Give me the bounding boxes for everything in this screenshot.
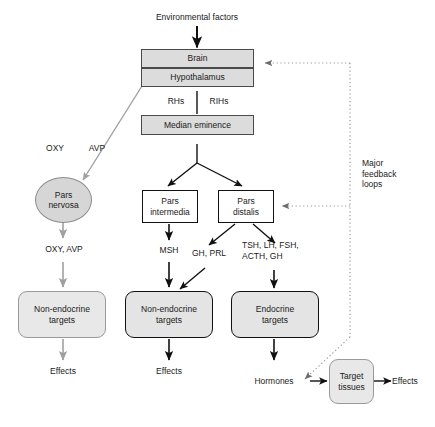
brain-box[interactable]: Brain bbox=[141, 49, 254, 68]
non-endocrine-targets-box-2[interactable]: Non-endocrine targets bbox=[125, 291, 213, 338]
non-endocrine-targets-box-1[interactable]: Non-endocrine targets bbox=[18, 291, 106, 338]
effects-label-2: Effects bbox=[142, 366, 196, 377]
rhs-label: RHs bbox=[160, 96, 192, 107]
effects-label-1: Effects bbox=[36, 366, 90, 377]
connector-median-to-pars-intermedia bbox=[168, 163, 197, 186]
endocrine-targets-box[interactable]: Endocrine targets bbox=[231, 291, 319, 338]
connector-hypothalamus-to-pars-nervosa bbox=[83, 86, 142, 180]
connector-median-to-pars-distalis bbox=[197, 163, 242, 186]
rihs-label: RIHs bbox=[202, 96, 236, 107]
anterior-hormones-label: TSH, LH, FSH, ACTH, GH bbox=[242, 240, 334, 261]
target-tissues-box[interactable]: Target tissues bbox=[329, 359, 374, 404]
diagram-canvas: Environmental factors RHs RIHs OXY AVP O… bbox=[0, 0, 435, 427]
oxy-label: OXY bbox=[40, 143, 70, 154]
hormones-label: Hormones bbox=[243, 376, 305, 387]
major-feedback-loops-label: Major feedback loops bbox=[362, 158, 428, 190]
median-eminence-box[interactable]: Median eminence bbox=[141, 115, 254, 135]
pars-intermedia-box[interactable]: Pars intermedia bbox=[142, 190, 198, 223]
pars-distalis-box[interactable]: Pars distalis bbox=[218, 190, 274, 223]
environmental-factors-label: Environmental factors bbox=[130, 12, 264, 23]
avp-label: AVP bbox=[82, 143, 112, 154]
connector-pars-distalis-to-ghprl bbox=[209, 224, 235, 245]
oxy-avp-label: OXY, AVP bbox=[25, 244, 103, 255]
hypothalamus-box[interactable]: Hypothalamus bbox=[141, 68, 254, 87]
effects-label-3: Effects bbox=[392, 376, 435, 387]
connector-ghprl-to-nonendocrine-2 bbox=[180, 268, 205, 289]
pars-nervosa-node[interactable]: Pars nervosa bbox=[35, 177, 92, 223]
gh-prl-label: GH, PRL bbox=[182, 248, 236, 259]
